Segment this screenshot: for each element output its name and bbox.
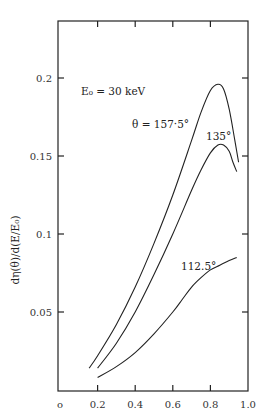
- curve-series-2: [98, 257, 237, 377]
- x-tick-label: 0.8: [202, 399, 218, 410]
- chart: o0.20.40.60.81.00.050.10.150.2 dη(θ)/d(E…: [0, 0, 266, 419]
- label-135: 135°: [206, 130, 231, 142]
- x-tick-label: 0.2: [90, 399, 106, 410]
- y-tick-label: 0.1: [36, 229, 52, 240]
- x-tick-label: 0.4: [127, 399, 143, 410]
- y-tick-label: 0.15: [30, 151, 52, 162]
- y-tick-label: 0.05: [30, 307, 52, 318]
- energy-annotation: E₀ = 30 keV: [81, 85, 146, 97]
- y-axis-label: dη(θ)/d(E/E₀): [9, 215, 21, 284]
- label-157-5: θ = 157·5°: [132, 118, 189, 130]
- x-tick-label: 1.0: [240, 399, 256, 410]
- curve-series-1: [98, 144, 237, 368]
- label-112-5: 112.5°: [181, 260, 216, 272]
- x-tick-label: 0.6: [165, 399, 181, 410]
- y-tick-label: 0.2: [36, 73, 52, 84]
- x-tick-label: o: [57, 399, 63, 410]
